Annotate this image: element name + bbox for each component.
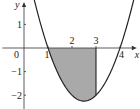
- y-tick-label: 1: [17, 19, 22, 30]
- x-tick-label: 3: [94, 35, 99, 46]
- y-axis-label: y: [14, 0, 20, 10]
- origin-label: 0: [14, 49, 19, 60]
- shaded-area: [48, 48, 96, 101]
- chart: 12341−1−2 x y 0: [0, 0, 140, 109]
- x-tick-label: 4: [119, 49, 124, 60]
- y-tick-label: −1: [11, 66, 22, 77]
- y-axis-arrow: [22, 2, 26, 7]
- x-tick-label: 2: [70, 35, 75, 46]
- x-axis-label: x: [134, 49, 140, 60]
- y-tick-label: −2: [11, 90, 22, 101]
